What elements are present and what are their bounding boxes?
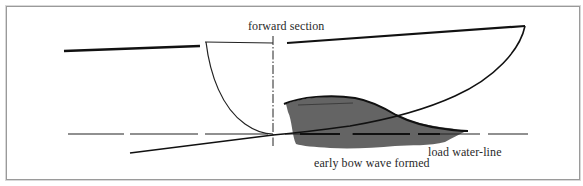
- sheer-line-aft: [64, 46, 200, 51]
- load-water-line-label: load water-line: [428, 146, 502, 158]
- section-deck-line: [205, 42, 273, 43]
- forward-section-label: forward section: [248, 20, 324, 32]
- forward-section-curve: [206, 42, 273, 134]
- bow-wave-label: early bow wave formed: [314, 157, 430, 169]
